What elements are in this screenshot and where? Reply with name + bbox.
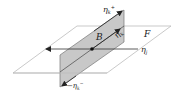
label-eta-k-plus: ηk+ — [103, 4, 115, 15]
origin-point — [90, 47, 94, 51]
label-plane-b: B — [95, 32, 103, 42]
label-neg-eta-k-minus: −ηk− — [67, 81, 84, 91]
diagram-canvas: ηk+ B ηk F ηj −ηk− — [0, 0, 181, 94]
label-eta-j: ηj — [141, 45, 148, 56]
label-plane-f: F — [143, 29, 151, 39]
